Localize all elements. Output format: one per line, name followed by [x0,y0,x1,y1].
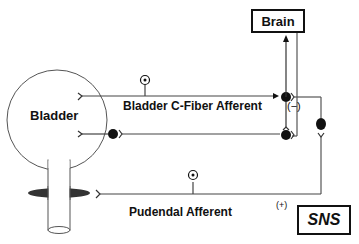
bladder-label: Bladder [30,108,78,123]
c-fiber-afferent-pathway [78,76,279,101]
spinal-relay-neuron-lower [281,130,291,140]
sns-neuron [316,118,326,130]
sns-label: SNS [308,211,341,229]
pudendal-afferent-pathway [96,171,321,199]
pudendal-afferent-label: Pudendal Afferent [129,205,232,219]
brain-label: Brain [261,14,294,29]
sns-node: SNS [297,205,351,235]
inhibitory-annotation: (−) [287,100,301,112]
c-fiber-afferent-label: Bladder C-Fiber Afferent [123,99,262,113]
excitatory-annotation: (+) [276,200,287,210]
lower-bladder-pathway [78,129,280,139]
urethra-opening [48,227,70,234]
brain-node: Brain [251,9,305,33]
